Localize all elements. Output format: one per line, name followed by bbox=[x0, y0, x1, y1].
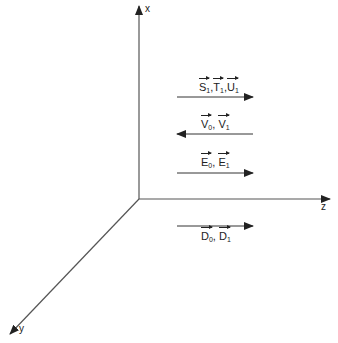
x-axis-label: x bbox=[145, 3, 150, 14]
vector-label-d: D0, D1 bbox=[201, 230, 231, 243]
vector-label-v: V0, V1 bbox=[201, 118, 230, 131]
vector-label-e: E0, E1 bbox=[201, 156, 230, 169]
z-axis-label: z bbox=[321, 201, 326, 212]
y-axis bbox=[10, 199, 139, 334]
vector-label-s-t-u: S1,T1,U1 bbox=[199, 81, 239, 94]
y-axis-label: y bbox=[19, 323, 24, 334]
coordinate-diagram bbox=[0, 0, 338, 343]
